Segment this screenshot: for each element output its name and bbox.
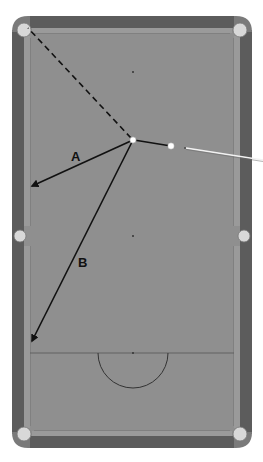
pocket-top-left — [17, 23, 31, 37]
right-cushion-lower — [234, 246, 240, 428]
left-cushion-upper — [24, 36, 30, 226]
cue-ball — [168, 143, 174, 149]
pocket-mid-right — [238, 230, 250, 242]
bottom-cushion — [32, 431, 232, 436]
left-cushion-lower — [24, 246, 30, 428]
pocket-bottom-right — [233, 427, 247, 441]
brown-spot — [132, 352, 134, 354]
centre-spot — [132, 235, 134, 237]
pool-table-diagram: A B — [0, 0, 263, 462]
bottom-rail — [28, 436, 236, 448]
object-ball — [130, 137, 136, 143]
pocket-mid-left — [14, 230, 26, 242]
path-a-label: A — [71, 149, 81, 164]
cue-tip — [184, 147, 186, 149]
pocket-bottom-left — [17, 427, 31, 441]
top-cushion — [32, 28, 232, 33]
right-cushion-upper — [234, 36, 240, 226]
table-cloth — [24, 28, 240, 436]
black-spot — [132, 71, 134, 73]
top-rail — [28, 16, 236, 28]
pocket-top-right — [233, 23, 247, 37]
path-b-label: B — [78, 255, 87, 270]
